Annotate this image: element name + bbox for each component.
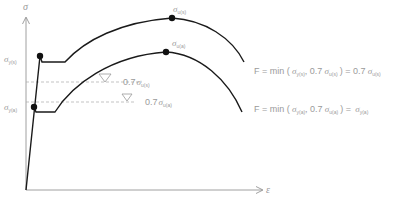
label-yield-upper: σy(s): [4, 54, 17, 65]
y-axis-label: σ: [23, 1, 29, 12]
yield-point-lower: [31, 104, 37, 110]
triangle-marker-lower-icon: [122, 94, 132, 101]
formula-upper: F = min ( σy(s), 0.7 σu(s)) = 0.7 σu(s): [254, 66, 381, 77]
curve-upper: [26, 18, 244, 190]
ultimate-point-lower: [163, 49, 169, 55]
label-ultimate-lower: σu(a): [172, 38, 186, 49]
yield-point-upper: [37, 53, 43, 59]
label-ref-upper: 0.7σu(s): [123, 77, 150, 88]
x-axis-label: ε: [266, 184, 270, 195]
formula-lower: F = min ( σy(a), 0.7 σu(a)) = σy(a): [254, 104, 369, 115]
label-yield-lower: σy(a): [4, 102, 17, 113]
label-ultimate-upper: σu(s): [173, 4, 186, 15]
ultimate-point-upper: [169, 15, 175, 21]
label-ref-lower: 0.7σu(a): [145, 97, 172, 108]
stress-strain-diagram: σ ε σu(s) σu(a) σy(s) σy(a) 0.7σu(s) 0.7…: [0, 0, 406, 200]
triangle-marker-upper-icon: [99, 74, 111, 82]
